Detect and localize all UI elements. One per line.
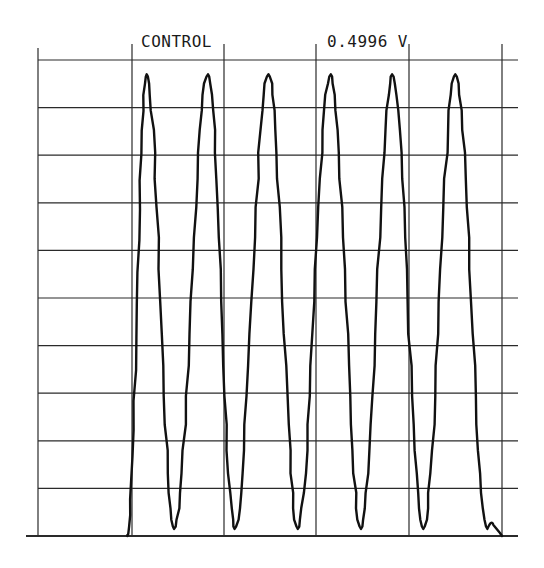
waveform-trace: [127, 74, 502, 536]
voltage-value: 0.4996: [327, 32, 388, 51]
voltage-readout: 0.4996V: [327, 32, 408, 51]
oscillogram-chart: [0, 0, 544, 568]
chart-title: CONTROL: [141, 32, 212, 51]
chart-grid: [26, 44, 518, 536]
voltage-unit: V: [398, 32, 408, 51]
